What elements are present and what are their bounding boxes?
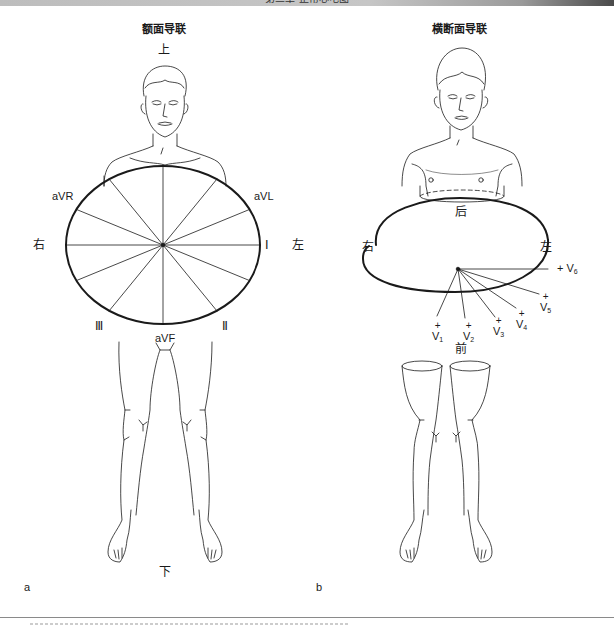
panel-a-letter: a bbox=[24, 582, 30, 593]
page-bottom-rule bbox=[0, 617, 614, 618]
transverse-leads-title: 横断面导联 bbox=[432, 24, 487, 35]
transverse-figure-torso bbox=[402, 48, 522, 202]
lead-v1-label: +V1 bbox=[432, 321, 443, 343]
lead-v5-label: +V5 bbox=[540, 292, 551, 314]
direction-inferior-label: 下 bbox=[159, 566, 171, 578]
lead-v3-label: +V3 bbox=[493, 316, 504, 338]
lead-ii-label: Ⅱ bbox=[222, 320, 228, 332]
direction-anterior-label: 前 bbox=[455, 343, 467, 355]
direction-superior-label: 上 bbox=[158, 44, 170, 56]
transverse-right-label: 右 bbox=[362, 241, 374, 253]
direction-right-label: 右 bbox=[33, 239, 45, 251]
page-footer-text-fragment bbox=[30, 623, 350, 625]
lead-v2-label: +V2 bbox=[463, 321, 474, 343]
frontal-leads-title: 额面导联 bbox=[142, 24, 186, 35]
hexaxial-ellipse bbox=[66, 166, 260, 324]
lead-i-label: Ⅰ bbox=[265, 239, 269, 251]
direction-posterior-label: 后 bbox=[455, 206, 467, 218]
direction-left-label: 左 bbox=[292, 239, 304, 251]
lead-iii-label: Ⅲ bbox=[95, 320, 103, 332]
lead-v6-label: + V6 bbox=[557, 263, 578, 275]
panel-b-letter: b bbox=[316, 582, 322, 593]
frontal-figure-legs bbox=[108, 342, 222, 562]
frontal-figure-head bbox=[104, 66, 226, 186]
transverse-figure-legs bbox=[400, 361, 492, 562]
transverse-left-label: 左 bbox=[540, 241, 552, 253]
lead-avl-label: aVL bbox=[254, 191, 274, 202]
lead-v4-label: +V4 bbox=[516, 309, 527, 331]
lead-avr-label: aVR bbox=[52, 191, 73, 202]
lead-avf-label: aVF bbox=[155, 333, 175, 344]
